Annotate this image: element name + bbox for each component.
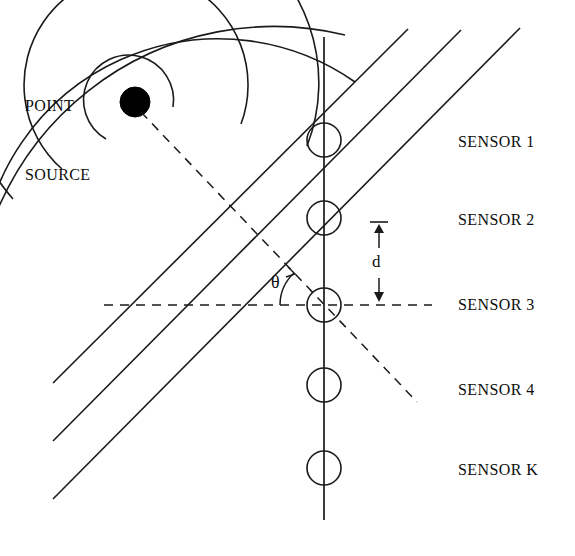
point-source-label-line2: SOURCE [25,163,91,186]
spacing-d-label: d [372,252,381,272]
spacing-arrow-up-head [374,224,384,233]
spacing-arrow-down-head [374,292,384,302]
point-source-label-line1: POINT [25,94,91,117]
angle-arc-theta [280,273,294,305]
plane-wavefront-2 [53,30,461,441]
sensor-label-k: SENSOR K [458,461,538,479]
sensor-label-1: SENSOR 1 [458,133,535,151]
sensor-label-4: SENSOR 4 [458,381,535,399]
sensor-label-3: SENSOR 3 [458,296,535,314]
sensor-label-2: SENSOR 2 [458,211,535,229]
point-source-label: POINT SOURCE [25,48,91,232]
point-source-dot [120,87,150,117]
sensor-array-diagram: POINT SOURCE θ d SENSOR 1 SENSOR 2 SENSO… [0,0,575,556]
angle-theta-label: θ [271,272,280,293]
